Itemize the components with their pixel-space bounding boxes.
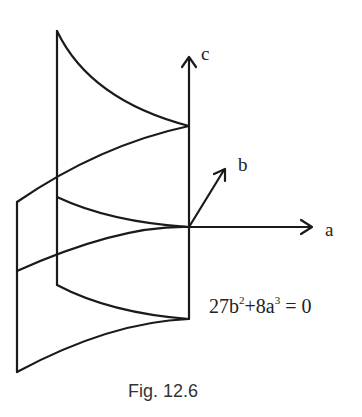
b-axis [189,170,224,227]
cusp-diagram: c b a 27b2+8a3 = 0 Fig. 12.6 [0,0,362,417]
cusp-equation: 27b2+8a3 = 0 [209,294,311,317]
top-cusp-lower-curve [17,126,189,202]
bottom-cusp-upper-curve [57,285,189,319]
middle-cusp-upper-curve [57,197,189,227]
eq-prefix: 27b [209,295,239,317]
eq-suffix: = 0 [280,295,311,317]
b-axis-label: b [238,154,248,175]
top-cusp-upper-curve [57,31,189,126]
eq-middle: +8a [245,295,275,317]
bottom-cusp-lower-curve [17,319,189,372]
c-axis-label: c [201,43,209,64]
middle-cusp-lower-curve [17,227,189,271]
figure-caption: Fig. 12.6 [128,381,198,401]
a-axis-label: a [325,219,334,240]
